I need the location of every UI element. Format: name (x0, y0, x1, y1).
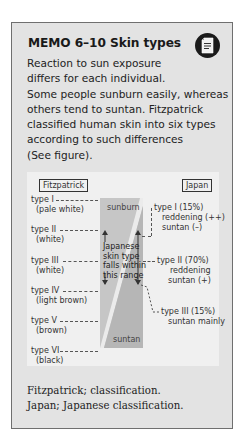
leader-line (60, 230, 98, 231)
fitz-type-desc: (black) (36, 356, 63, 366)
japan-header: Japan (182, 179, 212, 192)
fitz-type-1: type I (31, 195, 54, 205)
body-line: (See figure). (27, 148, 227, 163)
leader-line (56, 200, 98, 201)
japan-type-desc: suntan (+) (168, 276, 211, 286)
japan-type-desc: suntan (–) (162, 223, 202, 233)
fitz-type-desc: (pale white) (36, 205, 84, 215)
japan-type-3: type III (15%) (161, 307, 215, 317)
leader-line (60, 351, 98, 352)
body-line: differs for each individual. (27, 71, 227, 86)
range-line: this range (103, 271, 146, 281)
leader-line (139, 284, 161, 316)
leader-line (63, 291, 98, 292)
body-line: according to such differences (27, 132, 227, 147)
fitz-type-5: type V (31, 316, 57, 326)
caption-line: Fitzpatrick; classification. (27, 383, 183, 398)
leader-line (143, 261, 155, 262)
body-line: Reaction to sun exposure (27, 56, 227, 71)
body-line: classified human skin into six types (27, 117, 227, 132)
memo-title: MEMO 6–10 Skin types (28, 36, 181, 50)
document-icon (195, 33, 220, 58)
japanese-range-note: Japanese skin type falls within this ran… (103, 242, 146, 280)
leader-line (142, 236, 151, 237)
body-line: Some people sunburn easily, whereas (27, 87, 227, 102)
caption-line: Japan; Japanese classification. (27, 398, 183, 413)
suntan-label: suntan (113, 335, 140, 344)
figure-caption: Fitzpatrick; classification. Japan; Japa… (27, 383, 183, 413)
japan-type-desc: suntan mainly (168, 317, 225, 327)
leader-line (60, 321, 98, 322)
fitz-type-desc: (white) (36, 235, 64, 245)
fitz-type-3: type III (31, 256, 59, 266)
memo-box: MEMO 6–10 Skin types Reaction to sun exp… (11, 22, 233, 429)
memo-body: Reaction to sun exposure differs for eac… (27, 56, 227, 163)
range-line: falls within (103, 261, 146, 271)
japan-type-1: type I (15%) (154, 203, 203, 213)
leader-line (151, 208, 152, 236)
fitz-type-4: type IV (31, 286, 59, 296)
japan-type-desc: reddening (++) (162, 213, 225, 223)
range-line: skin type (103, 252, 146, 262)
fitz-type-desc: (white) (36, 266, 64, 276)
leader-line (63, 261, 98, 262)
japan-type-desc: reddening (170, 266, 211, 276)
skin-type-figure: Fitzpatrick Japan sunburn suntan Japanes… (27, 172, 219, 366)
range-line: Japanese (103, 242, 146, 252)
body-line: others tend to suntan. Fitzpatrick (27, 102, 227, 117)
fitzpatrick-header: Fitzpatrick (39, 179, 88, 192)
fitz-type-2: type II (31, 225, 56, 235)
fitz-type-desc: (brown) (36, 326, 67, 336)
sunburn-label: sunburn (107, 203, 140, 212)
fitz-type-desc: (light brown) (36, 296, 87, 306)
fitz-type-6: type VI (31, 346, 59, 356)
japan-type-2: type II (70%) (157, 256, 209, 266)
